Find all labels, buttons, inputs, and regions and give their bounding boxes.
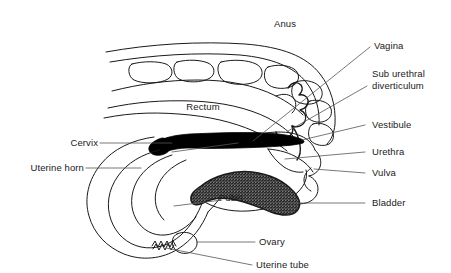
label-vagina: Vagina bbox=[374, 40, 449, 52]
vulva-cleft bbox=[304, 168, 311, 191]
label-bladder: Bladder bbox=[372, 197, 447, 209]
vulva-dorsal-lip bbox=[309, 150, 321, 176]
label-urethra: Urethra bbox=[372, 146, 447, 158]
label-sub-urethral-diverticulum: Sub urethraldiverticulum bbox=[372, 68, 451, 91]
leader-lines-group bbox=[86, 47, 370, 265]
label-vulva: Vulva bbox=[372, 167, 447, 179]
vestibule-floor bbox=[268, 149, 313, 172]
label-pubis: Pubis bbox=[206, 192, 256, 204]
label-anus: Anus bbox=[255, 18, 315, 30]
label-uterine-tube: Uterine tube bbox=[256, 259, 346, 271]
label-vestibule: Vestibule bbox=[372, 119, 447, 131]
label-sub-urethral-line2: diverticulum bbox=[372, 80, 424, 91]
label-sub-urethral-line1: Sub urethral bbox=[372, 68, 425, 79]
leader-vulva bbox=[314, 169, 365, 173]
leader-uterine-tube bbox=[166, 248, 252, 265]
uterus-outer-wall bbox=[87, 137, 208, 258]
label-uterine-horn: Uterine horn bbox=[6, 162, 84, 174]
label-rectum: Rectum bbox=[173, 101, 233, 113]
leader-urethra bbox=[285, 152, 365, 159]
cervix-fornix-tip bbox=[149, 138, 171, 155]
vertebra-2 bbox=[174, 60, 214, 82]
uterus-lumen-line bbox=[155, 160, 186, 220]
vertebra-1 bbox=[129, 62, 172, 83]
anatomical-diagram: Anus Rectum Pubis Cervix Uterine horn Va… bbox=[0, 0, 451, 273]
leader-sub-urethral bbox=[288, 86, 367, 131]
vertebra-7 bbox=[309, 123, 334, 145]
sacrum-ventral-border bbox=[110, 54, 319, 125]
vertebra-3 bbox=[218, 60, 262, 84]
label-ovary: Ovary bbox=[259, 236, 329, 248]
label-cervix: Cervix bbox=[10, 137, 98, 149]
uterus-inner-wall-2 bbox=[132, 155, 196, 235]
